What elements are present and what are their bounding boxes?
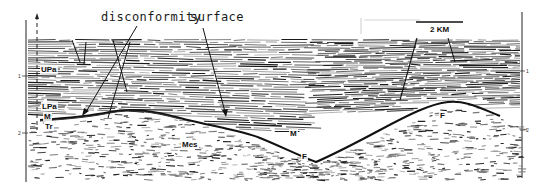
scale-bar-label: 2 KM (428, 25, 451, 34)
annotation-disconformity: disconformity (101, 10, 201, 24)
unit-label-lpa: LPa (41, 102, 58, 111)
left-tick-label-1: 1 (18, 73, 21, 79)
unit-label-m-left: M (43, 112, 52, 121)
arrowhead-icon (222, 109, 228, 117)
unit-label-f-bottom: F (301, 152, 308, 161)
unit-label-tr: Tr (44, 122, 54, 131)
unit-label-f-right: F (439, 111, 446, 120)
left-tick-label-2: 2 (18, 130, 21, 136)
unit-label-m-center: M (289, 129, 298, 138)
up-arrow-icon (35, 13, 39, 19)
unit-label-upa: UPa (40, 65, 58, 74)
seismic-section (0, 0, 548, 192)
seismic-figure: disconformity surface 2 KM 1 2 1 2 UPa L… (0, 0, 548, 192)
right-tick-label-1: 1 (526, 68, 529, 74)
right-tick-label-2: 2 (526, 127, 529, 133)
unit-label-mes: Mes (181, 140, 199, 149)
fault-line (108, 42, 130, 118)
annotation-surface: surface (190, 10, 244, 24)
